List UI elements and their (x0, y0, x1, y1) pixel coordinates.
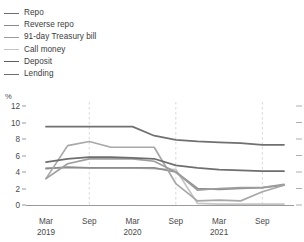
legend-swatch-icon (4, 13, 19, 14)
legend-item-label: 91-day Treasury bill (24, 31, 96, 43)
legend-swatch-icon (4, 49, 19, 50)
y-axis-tick-label: 6 (15, 151, 20, 160)
y-axis-tick-label: 2 (15, 184, 20, 193)
legend-item[interactable]: Deposit (4, 56, 174, 68)
legend-item-label: Reverse repo (24, 19, 74, 31)
legend-swatch-icon (4, 37, 19, 38)
legend-item[interactable]: 91-day Treasury bill (4, 31, 174, 43)
y-axis-tick-label: 12 (11, 102, 20, 111)
y-axis-tick-label: 4 (15, 168, 20, 177)
x-axis: Mar2019SepMar2020SepMar2021Sep (26, 212, 304, 242)
x-axis-tick-label: Mar2020 (123, 217, 141, 238)
x-axis-tick-label: Sep (169, 217, 184, 228)
series-line-repo (46, 159, 284, 190)
y-axis-tick-label: 10 (11, 118, 20, 127)
legend-item[interactable]: Lending (4, 68, 174, 80)
x-axis-tick-year: 2019 (37, 228, 55, 239)
legend-swatch-icon (4, 61, 19, 62)
plot-area: 121086420 Mar2019SepMar2020SepMar2021Sep (0, 100, 304, 242)
y-axis-tick-label: 8 (15, 135, 20, 144)
legend-item-label: Repo (24, 7, 44, 19)
x-axis-tick-label: Mar2019 (37, 217, 55, 238)
legend-item-label: Call money (24, 44, 65, 56)
x-axis-tick-month: Mar (39, 217, 53, 226)
y-axis-tick-label: 0 (15, 201, 20, 210)
legend-item-label: Deposit (24, 56, 52, 68)
x-axis-tick-month: Sep (82, 217, 97, 226)
x-axis-tick-month: Mar (125, 217, 139, 226)
legend-item[interactable]: Call money (4, 44, 174, 56)
legend-item[interactable]: Reverse repo (4, 19, 174, 31)
x-axis-tick-label: Mar2021 (210, 217, 228, 238)
legend-swatch-icon (4, 74, 19, 75)
series-line-call-money (46, 168, 284, 204)
legend-item[interactable]: Repo (4, 7, 174, 19)
x-axis-tick-year: 2020 (123, 228, 141, 239)
x-axis-tick-label: Sep (82, 217, 97, 228)
legend-swatch-icon (4, 25, 19, 26)
x-axis-tick-month: Sep (255, 217, 270, 226)
chart-figure: RepoReverse repo91-day Treasury billCall… (0, 0, 304, 242)
x-axis-tick-year: 2021 (210, 228, 228, 239)
x-axis-tick-label: Sep (255, 217, 270, 228)
chart-canvas (26, 100, 304, 212)
x-axis-tick-month: Sep (169, 217, 184, 226)
x-axis-tick-month: Mar (212, 217, 226, 226)
legend-item-label: Lending (24, 68, 54, 80)
chart-legend: RepoReverse repo91-day Treasury billCall… (4, 7, 174, 80)
y-axis: 121086420 (0, 100, 26, 212)
